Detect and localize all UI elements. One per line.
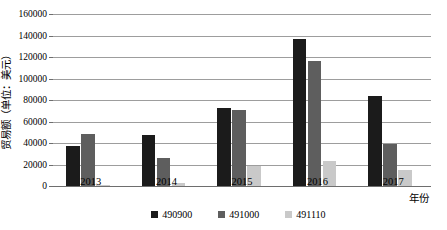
y-tick-label: 0 — [0, 181, 47, 191]
legend-item[interactable]: 491000 — [218, 209, 259, 220]
bar-group — [142, 14, 186, 186]
y-tick-label: 40000 — [0, 138, 47, 148]
legend-item[interactable]: 491110 — [285, 209, 325, 220]
y-tick-label: 20000 — [0, 160, 47, 170]
y-tick-mark — [49, 79, 53, 80]
bar-group — [293, 14, 337, 186]
x-tick-label: 2016 — [307, 176, 328, 187]
bar — [142, 135, 156, 186]
bar-group — [217, 14, 261, 186]
x-axis-title: 年份 — [409, 190, 429, 205]
bar — [368, 96, 382, 186]
legend-label: 491110 — [296, 209, 325, 220]
y-tick-label: 60000 — [0, 117, 47, 127]
legend-swatch-icon — [151, 211, 158, 218]
y-tick-mark — [49, 100, 53, 101]
plot-area — [53, 14, 431, 186]
bar — [217, 108, 231, 186]
legend-swatch-icon — [285, 211, 292, 218]
bar — [66, 146, 80, 186]
chart-legend: 490900491000491110 — [0, 209, 447, 220]
y-tick-mark — [49, 143, 53, 144]
bar-group — [368, 14, 412, 186]
legend-swatch-icon — [218, 211, 225, 218]
bar-chart: 贸易额（单位：美元） 02000040000600008000010000012… — [0, 0, 447, 230]
legend-label: 490900 — [162, 209, 192, 220]
x-tick-label: 2015 — [232, 176, 253, 187]
y-tick-label: 140000 — [0, 31, 47, 41]
x-tick-label: 2013 — [80, 176, 101, 187]
y-tick-mark — [49, 36, 53, 37]
bar-group — [66, 14, 110, 186]
y-tick-label: 160000 — [0, 9, 47, 19]
y-tick-mark — [49, 186, 53, 187]
y-tick-label: 100000 — [0, 74, 47, 84]
y-tick-mark — [49, 14, 53, 15]
y-tick-label: 120000 — [0, 52, 47, 62]
bar — [293, 39, 307, 186]
y-tick-mark — [49, 165, 53, 166]
bar — [308, 61, 322, 186]
legend-label: 491000 — [229, 209, 259, 220]
x-tick-label: 2017 — [383, 176, 404, 187]
legend-item[interactable]: 490900 — [151, 209, 192, 220]
y-tick-label: 80000 — [0, 95, 47, 105]
y-tick-mark — [49, 57, 53, 58]
x-tick-label: 2014 — [156, 176, 177, 187]
y-tick-mark — [49, 122, 53, 123]
bar — [232, 110, 246, 186]
